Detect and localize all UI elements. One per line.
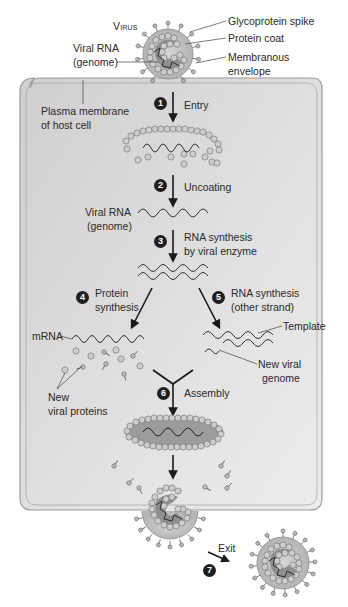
viral-rna-label-line1: Viral RNA [73,42,119,54]
step-5-label-line2: (other strand) [231,301,294,313]
step-4-label-line1: Protein [95,287,128,299]
viral-replication-diagram [0,0,348,607]
step-5-badge: 5 [212,291,225,304]
glycoprotein-spike-label: Glycoprotein spike [228,15,314,27]
new-viral-genome-label-line2: genome [262,372,300,384]
plasma-membrane-label-line1: Plasma membrane [41,105,129,117]
membranous-envelope-label-line2: envelope [228,65,271,77]
step-2-label: Uncoating [184,181,231,193]
assembled-capsid [124,415,224,450]
new-viral-proteins-label-line1: New [48,391,69,403]
step-4-badge: 4 [76,291,89,304]
step-6-badge: 6 [157,387,170,400]
new-viral-genome-label-line1: New viral [258,358,301,370]
virus-top [135,21,201,84]
viral-rna-label-line2: (genome) [73,56,118,68]
step-4-label-line2: synthesis [95,301,139,313]
step-3-badge: 3 [154,235,167,248]
mrna-label: mRNA [32,330,63,342]
step-7-badge: 7 [203,564,216,577]
step-7-label: Exit [218,542,236,554]
step-1-badge: 1 [154,97,167,110]
step-3-label-line2: by viral enzyme [184,245,257,257]
new-viral-proteins-label-line2: viral proteins [48,405,108,417]
protein-coat-label: Protein coat [228,32,284,44]
virus-label: Virus [113,20,138,32]
step-3-label-line1: RNA synthesis [184,231,252,243]
membranous-envelope-label-line1: Membranous [228,51,289,63]
plasma-membrane-label-line2: of host cell [41,119,91,131]
genome-label-line2: (genome) [87,220,132,232]
step-6-label: Assembly [184,387,230,399]
step-2-badge: 2 [154,179,167,192]
genome-label-line1: Viral RNA [85,206,131,218]
released-virus [249,529,317,597]
step-1-label: Entry [184,99,209,111]
step-5-label-line1: RNA synthesis [231,287,299,299]
template-label: Template [283,320,326,332]
